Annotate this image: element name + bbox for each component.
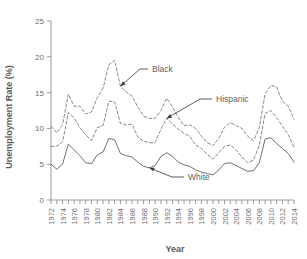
x-tick-label: 2014: [290, 208, 299, 225]
x-tick-label: 1986: [128, 208, 137, 225]
y-tick-label: 25: [35, 17, 44, 26]
x-tick-label: 2004: [232, 208, 241, 225]
unemployment-rate-line-chart: Unemployment Rate (%) Year 0510152025 19…: [0, 0, 307, 259]
x-tick-label: 1994: [174, 208, 183, 225]
series-annotations-group: BlackHispanicWhite: [120, 64, 249, 182]
annotation-label: White: [188, 172, 210, 182]
chart-figure: Unemployment Rate (%) Year 0510152025 19…: [0, 0, 307, 259]
x-tick-label: 2012: [278, 208, 287, 225]
annotation-label: Hispanic: [216, 94, 249, 104]
x-tick-label: 1998: [197, 208, 206, 225]
annotation-white: White: [149, 168, 210, 182]
annotation-black: Black: [120, 64, 173, 86]
y-tick-label: 0: [40, 196, 45, 205]
y-tick-label: 15: [35, 89, 44, 98]
x-tick-label: 1984: [116, 208, 125, 225]
x-tick-label: 1992: [163, 208, 172, 225]
x-tick-label: 1996: [186, 208, 195, 225]
annotation-hispanic: Hispanic: [167, 94, 250, 118]
x-tick-label: 1982: [105, 208, 114, 225]
y-tick-label: 10: [35, 124, 44, 133]
y-axis-title: Unemployment Rate (%): [4, 65, 14, 169]
arrow-head-icon: [149, 168, 154, 172]
x-tick-label: 2010: [267, 208, 276, 225]
x-tick-label: 1980: [93, 208, 102, 225]
x-tick-label: 2006: [244, 208, 253, 225]
x-tick-label: 1976: [70, 208, 79, 225]
data-series-group: [51, 60, 294, 175]
x-axis-tick-labels: 1972197419761978198019821984198619881990…: [47, 208, 299, 225]
x-tick-label: 1978: [82, 208, 91, 225]
series-line-white: [51, 138, 294, 175]
x-tick-label: 2002: [221, 208, 230, 225]
annotation-label: Black: [152, 64, 174, 74]
leader-line: [149, 168, 184, 177]
x-tick-label: 2008: [255, 208, 264, 225]
x-tick-label: 1972: [47, 208, 56, 225]
x-axis-ticks: [51, 200, 294, 204]
x-tick-label: 1974: [59, 208, 68, 225]
y-tick-label: 5: [40, 160, 45, 169]
x-tick-label: 2000: [209, 208, 218, 225]
x-tick-label: 1988: [140, 208, 149, 225]
y-tick-label: 20: [35, 53, 44, 62]
x-axis-title: Year: [165, 244, 185, 254]
y-axis-ticks: 0510152025: [35, 17, 51, 205]
x-tick-label: 1990: [151, 208, 160, 225]
